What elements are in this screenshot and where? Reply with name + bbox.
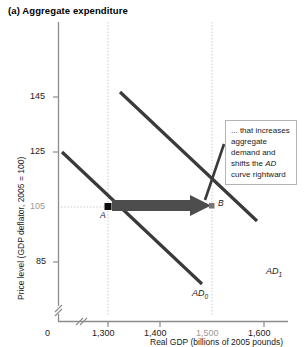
x-axis-title: Real GDP (billions of 2005 pounds) bbox=[150, 337, 283, 347]
y-axis-break-mark-1 bbox=[55, 305, 62, 312]
callout-line-4-emphasis: AD bbox=[265, 159, 276, 168]
curve-label-ad1-text: AD bbox=[266, 266, 279, 276]
curve-label-ad0-sub: 0 bbox=[205, 293, 209, 300]
axis-origin-label: 0 bbox=[45, 328, 50, 338]
callout-line-2: aggregate bbox=[231, 136, 292, 147]
curve-label-ad1-sub: 1 bbox=[279, 271, 283, 278]
point-a-marker bbox=[105, 203, 112, 210]
curve-label-ad0: AD0 bbox=[192, 288, 208, 300]
callout-line-4-text: shifts the bbox=[231, 159, 265, 168]
figure-aggregate-expenditure: (a) Aggregate expenditure bbox=[0, 0, 305, 347]
callout-line-4: shifts the AD bbox=[231, 158, 292, 169]
curve-label-ad0-text: AD bbox=[192, 288, 205, 298]
callout-line-5: curve rightward bbox=[231, 169, 292, 180]
callout-leader-line bbox=[205, 144, 224, 200]
y-axis-title: Price level (GDP deflator, 2005 = 100) bbox=[16, 157, 26, 300]
point-label-b: B bbox=[218, 198, 224, 208]
y-tick-label-85: 85 bbox=[36, 256, 46, 266]
y-tick-label-125: 125 bbox=[30, 146, 45, 156]
callout-line-3: demand and bbox=[231, 147, 292, 158]
x-tick-label-1300: 1,300 bbox=[92, 328, 115, 338]
callout-box: ... that increases aggregate demand and … bbox=[225, 120, 297, 185]
point-b-marker bbox=[209, 203, 215, 209]
point-label-a: A bbox=[100, 210, 106, 220]
y-tick-label-145: 145 bbox=[30, 91, 45, 101]
y-tick-label-105: 105 bbox=[30, 201, 45, 211]
curve-label-ad1: AD1 bbox=[266, 266, 282, 278]
curve-ad0 bbox=[62, 152, 202, 284]
callout-line-1: ... that increases bbox=[231, 125, 292, 136]
